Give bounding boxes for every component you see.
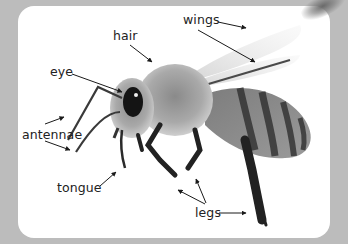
arrow-tongue <box>100 172 116 186</box>
label-antennae: antennae <box>22 127 82 142</box>
label-eye: eye <box>50 64 73 79</box>
label-hair: hair <box>113 28 138 43</box>
arrow-legs-2 <box>196 179 206 203</box>
arrow-wings-1 <box>218 22 246 28</box>
abdomen-shape <box>205 88 311 158</box>
label-legs: legs <box>195 205 221 220</box>
arrow-antennae-2 <box>45 141 70 150</box>
arrow-antennae-1 <box>45 117 64 124</box>
label-tongue: tongue <box>57 180 102 195</box>
arrow-hair <box>130 45 152 62</box>
label-wings: wings <box>183 12 220 27</box>
